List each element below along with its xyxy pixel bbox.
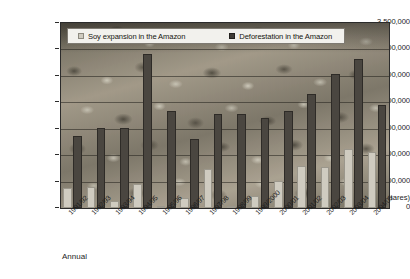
bar-group <box>248 23 271 208</box>
bar-soy-expansion <box>133 184 142 208</box>
bar-soy-expansion <box>321 167 330 208</box>
chart-legend: Soy expansion in the Amazon Deforestatio… <box>67 28 345 44</box>
bar-deforestation <box>237 114 246 208</box>
bar-deforestation <box>307 94 316 208</box>
plot-area <box>60 22 390 209</box>
bar-group <box>108 23 131 208</box>
legend-label-deforestation: Deforestation in the Amazon <box>239 32 332 41</box>
y-axis-tick-mark <box>55 181 59 182</box>
bar-group <box>61 23 84 208</box>
bar-group <box>366 23 389 208</box>
bar-series-container <box>61 23 389 208</box>
bar-soy-expansion <box>297 166 306 208</box>
bar-deforestation <box>284 111 293 208</box>
bar-group <box>272 23 295 208</box>
bar-deforestation <box>214 114 223 208</box>
y-axis-tick-mark <box>55 48 59 49</box>
chart-figure: 3,500,0003,000,0002,500,0002,000,0001,50… <box>0 0 410 279</box>
bar-soy-expansion <box>204 169 213 208</box>
bar-deforestation <box>354 59 363 208</box>
bar-deforestation <box>143 54 152 208</box>
bar-group <box>131 23 154 208</box>
bar-deforestation <box>261 118 270 208</box>
soy-swatch-icon <box>78 33 84 39</box>
y-axis-tick-mark <box>55 154 59 155</box>
bar-group <box>84 23 107 208</box>
deforestation-swatch-icon <box>229 33 235 39</box>
legend-item-deforestation: Deforestation in the Amazon <box>229 29 332 43</box>
y-axis-tick-mark <box>55 75 59 76</box>
bar-group <box>342 23 365 208</box>
bar-group <box>155 23 178 208</box>
bar-soy-expansion <box>63 188 72 208</box>
bar-group <box>225 23 248 208</box>
y-axis-tick-mark <box>55 101 59 102</box>
bar-deforestation <box>378 105 387 208</box>
bar-group <box>319 23 342 208</box>
bar-group <box>295 23 318 208</box>
bar-group <box>202 23 225 208</box>
y-axis-tick-mark <box>55 128 59 129</box>
y-axis-tick-mark <box>55 22 59 23</box>
bar-group <box>178 23 201 208</box>
legend-label-soy: Soy expansion in the Amazon <box>88 32 185 41</box>
legend-item-soy: Soy expansion in the Amazon <box>78 29 185 43</box>
bar-deforestation <box>167 111 176 208</box>
x-axis-title: Annual <box>62 252 87 261</box>
y-axis-tick-mark <box>55 207 59 208</box>
bar-deforestation <box>331 74 340 208</box>
